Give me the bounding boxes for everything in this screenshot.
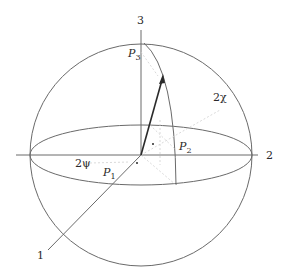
meridian-arc xyxy=(144,43,176,185)
angle-marker-psi xyxy=(136,162,138,164)
angle-psi-label: 2ψ xyxy=(75,157,91,170)
p2-label: P2 xyxy=(178,140,192,155)
p1-label: P1 xyxy=(102,166,116,181)
angle-marker-chi xyxy=(152,143,154,145)
poincare-sphere-diagram: 3 2 1 P3 P2 P1 2χ 2ψ xyxy=(0,0,288,280)
stokes-vector xyxy=(141,80,162,155)
axis-3-label: 3 xyxy=(137,14,144,27)
arrowhead-icon xyxy=(159,74,165,84)
axis-2-label: 2 xyxy=(266,149,273,162)
angle-chi-label: 2χ xyxy=(213,91,227,104)
p3-label: P3 xyxy=(127,47,141,62)
axis-1 xyxy=(48,155,141,250)
axis-1-label: 1 xyxy=(37,249,44,262)
